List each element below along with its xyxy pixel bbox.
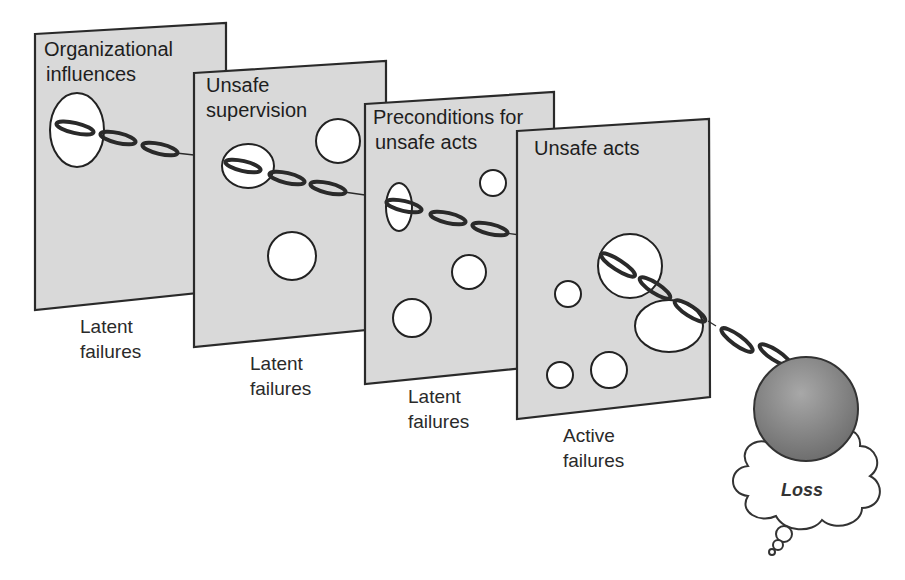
layer-caption: Latent failures [408,386,469,432]
loss-ball [754,357,858,461]
hole [547,362,573,388]
loss-label: Loss [781,480,823,500]
hole [480,170,506,196]
layer-unsafe-acts: Unsafe acts [517,119,710,419]
hole [268,232,316,280]
hole [393,299,431,337]
hole [316,119,360,163]
loss-outcome: Loss [733,357,880,555]
thought-bubble-small [769,549,775,555]
layer-unsafe-supervision: Unsafe supervision [194,61,386,347]
hole [50,93,104,167]
hole [591,352,627,388]
swiss-cheese-diagram: Organizational influences Latent failure… [0,0,905,580]
layer-caption: Latent failures [250,353,311,399]
thought-bubble-medium [773,540,783,550]
layer-caption: Active failures [563,425,624,471]
hole [555,281,581,307]
layer-caption: Latent failures [80,316,141,362]
layer-title: Unsafe acts [534,137,640,159]
chain-to-loss [708,321,793,369]
hole [452,255,486,289]
